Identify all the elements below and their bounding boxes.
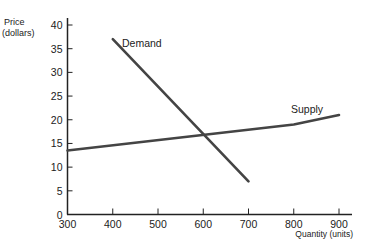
x-tick-label: 700	[240, 218, 258, 230]
supply-label: Supply	[291, 103, 324, 115]
demand-curve	[113, 39, 249, 181]
x-tick-label: 400	[104, 218, 122, 230]
demand-label: Demand	[122, 37, 162, 49]
y-axis-label-line2: (dollars)	[2, 28, 35, 38]
supply-demand-chart: Price (dollars) 0510152025303540 3004005…	[0, 0, 371, 250]
y-tick-label: 5	[57, 185, 63, 197]
x-ticks: 300400500600700800900	[59, 209, 348, 230]
x-axis-label: Quantity (units)	[295, 229, 353, 239]
x-tick-label: 300	[59, 218, 77, 230]
y-tick-label: 10	[51, 161, 63, 173]
y-tick-label: 25	[51, 90, 63, 102]
y-tick-label: 20	[51, 114, 63, 126]
y-tick-label: 30	[51, 66, 63, 78]
y-tick-label: 35	[51, 43, 63, 55]
x-tick-label: 600	[194, 218, 212, 230]
y-ticks: 0510152025303540	[51, 19, 73, 221]
y-tick-label: 40	[51, 19, 63, 31]
x-tick-label: 800	[285, 218, 303, 230]
x-tick-label: 500	[149, 218, 167, 230]
x-tick-label: 900	[330, 218, 348, 230]
y-axis-label-line1: Price	[4, 17, 25, 27]
y-tick-label: 15	[51, 137, 63, 149]
